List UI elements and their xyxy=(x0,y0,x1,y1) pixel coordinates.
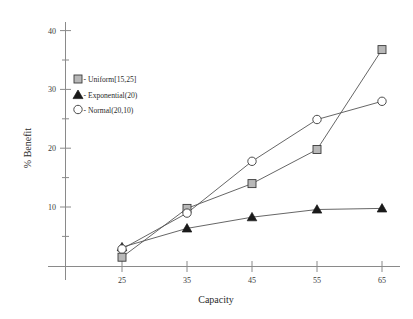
data-point-normal-25 xyxy=(118,245,126,253)
data-point-uniform-25 xyxy=(118,253,126,261)
data-point-normal-35 xyxy=(183,209,191,217)
chart-legend: Uniform[15,25] - Exponential(20) - Norma… xyxy=(73,75,138,115)
data-point-uniform-65 xyxy=(378,46,386,54)
data-point-normal-55 xyxy=(313,115,321,123)
data-point-exponential-65 xyxy=(377,204,387,212)
legend-label-uniform: Uniform[15,25] xyxy=(88,75,136,84)
axis-group xyxy=(48,22,400,280)
legend-marker-circle-icon xyxy=(74,105,82,113)
data-point-exponential-55 xyxy=(312,205,322,213)
data-point-normal-65 xyxy=(378,97,386,105)
x-axis-title: Capacity xyxy=(198,294,234,305)
x-tick-label-55: 55 xyxy=(313,276,321,285)
legend-label-normal: Normal(20,10) xyxy=(88,106,134,115)
x-tick-label-35: 35 xyxy=(183,276,191,285)
series-line-normal-20-10 xyxy=(122,101,382,249)
legend-marker-triangle-icon xyxy=(73,90,83,99)
legend-dash-exponential: - xyxy=(83,91,86,100)
series-markers-exponential xyxy=(117,204,387,251)
x-tick-label-25: 25 xyxy=(118,276,126,285)
series-line-uniform-15-25 xyxy=(122,50,382,258)
y-tick-label-10: 10 xyxy=(48,203,56,212)
x-tick-group: 25 35 45 55 65 xyxy=(118,261,386,285)
line-chart-svg: 40 30 20 10 25 35 45 5 xyxy=(0,0,413,319)
y-tick-label-20: 20 xyxy=(48,144,56,153)
legend-dash-normal: - xyxy=(83,106,86,115)
y-tick-label-30: 30 xyxy=(48,85,56,94)
data-point-uniform-45 xyxy=(248,180,256,188)
x-tick-label-45: 45 xyxy=(248,276,256,285)
series-lines-group xyxy=(122,50,382,258)
x-tick-label-65: 65 xyxy=(378,276,386,285)
legend-dash-uniform: - xyxy=(83,75,86,84)
data-point-uniform-55 xyxy=(313,146,321,154)
chart-figure: 40 30 20 10 25 35 45 5 xyxy=(0,0,413,319)
legend-marker-square-icon xyxy=(74,75,82,83)
data-point-normal-45 xyxy=(248,157,256,165)
legend-label-exponential: Exponential(20) xyxy=(88,91,138,100)
y-tick-label-40: 40 xyxy=(48,27,56,36)
y-axis-title: % Benefit xyxy=(22,128,33,168)
